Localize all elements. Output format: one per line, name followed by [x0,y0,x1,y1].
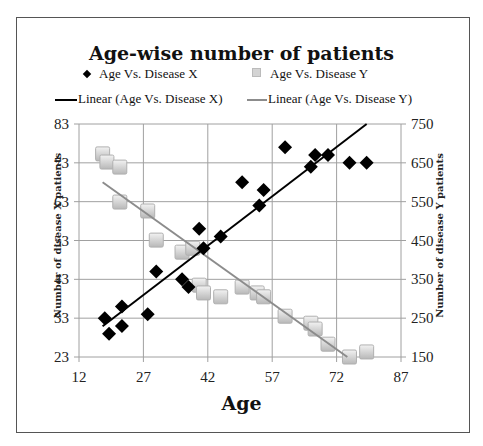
y-tick-right: 250 [411,310,434,326]
data-point-disease-y [149,233,163,247]
y-tick-right: 750 [411,116,434,132]
x-tick: 87 [394,369,410,385]
data-point-disease-y [342,350,356,364]
plot-area: 2315033250433505345063550736508375012274… [0,0,483,446]
y-tick-right: 550 [411,194,434,210]
data-point-disease-x [149,265,163,279]
data-point-disease-x [115,319,129,333]
data-point-disease-x [235,175,249,189]
data-point-disease-y [214,290,228,304]
y-tick-right: 150 [411,349,434,365]
trendline-disease-y [103,182,348,357]
data-point-disease-x [192,222,206,236]
x-tick: 57 [265,369,281,385]
data-point-disease-x [98,311,112,325]
x-tick: 27 [136,369,152,385]
trendline-disease-x [103,124,367,326]
data-point-disease-x [342,156,356,170]
y-tick-right: 450 [411,233,434,249]
data-point-disease-x [360,156,374,170]
data-point-disease-y [197,286,211,300]
y-tick-left: 83 [54,116,69,132]
data-point-disease-y [113,160,127,174]
x-tick: 42 [200,369,215,385]
y-tick-right: 650 [411,155,434,171]
y-axis-label-right: Number of disease Y patients [434,141,445,331]
y-tick-right: 350 [411,271,434,287]
data-point-disease-y [360,345,374,359]
x-axis-label: Age [0,392,483,414]
y-axis-label-left: Number of disease X patients [52,141,63,331]
x-tick: 72 [329,369,344,385]
y-tick-left: 23 [54,349,69,365]
data-point-disease-x [278,140,292,154]
data-point-disease-y [100,155,114,169]
data-point-disease-x [257,183,271,197]
x-tick: 12 [72,369,87,385]
data-point-disease-x [141,307,155,321]
data-point-disease-x [102,327,116,341]
